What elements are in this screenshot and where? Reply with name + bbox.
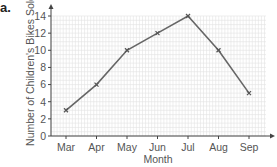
x-tick-label: Jun xyxy=(149,141,166,153)
x-axis-ticks: MarAprMayJunJulAugSep xyxy=(57,136,259,153)
line-chart: 02468101214 MarAprMayJunJulAugSep xyxy=(0,0,277,167)
x-tick-label: Apr xyxy=(88,141,105,153)
x-tick-label: May xyxy=(117,141,138,153)
y-tick-label: 14 xyxy=(34,10,46,22)
y-axis-ticks: 02468101214 xyxy=(34,10,51,142)
x-tick-label: Jul xyxy=(181,141,194,153)
y-tick-label: 6 xyxy=(40,78,46,90)
axes xyxy=(49,4,276,139)
x-tick-label: Mar xyxy=(57,141,76,153)
x-tick-label: Sep xyxy=(240,141,259,153)
y-tick-label: 10 xyxy=(34,44,46,56)
y-tick-label: 0 xyxy=(40,130,46,142)
y-tick-label: 2 xyxy=(40,113,46,125)
y-tick-label: 12 xyxy=(34,27,46,39)
x-tick-label: Aug xyxy=(209,141,228,153)
y-tick-label: 8 xyxy=(40,61,46,73)
y-tick-label: 4 xyxy=(40,96,46,108)
